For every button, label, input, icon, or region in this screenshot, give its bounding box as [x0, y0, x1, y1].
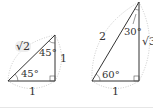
left-right-angle-mark	[50, 76, 55, 81]
right-top-angle-label: 30°	[124, 27, 142, 37]
left-base-label: 1	[29, 86, 36, 97]
right-bottom-angle-arc	[96, 74, 100, 81]
right-right-angle-mark	[134, 76, 139, 81]
right-top-angle-pointer	[133, 14, 136, 24]
bottom-divider	[0, 107, 153, 108]
left-vertical-side-label: 1	[60, 53, 67, 64]
right-hypotenuse-label: 2	[99, 31, 106, 42]
triangles-figure	[0, 0, 153, 110]
right-base-label: 1	[112, 86, 119, 97]
left-top-angle-label: 45°	[39, 48, 57, 58]
left-bottom-angle-label: 45°	[21, 69, 39, 79]
left-hypotenuse-label: √2	[15, 41, 31, 52]
left-top-angle-arc	[49, 41, 55, 43]
right-vertical-side-label: √3	[142, 36, 153, 47]
right-top-angle-arc	[135, 9, 139, 10]
right-dotted-arcs	[92, 2, 150, 89]
right-bottom-angle-label: 60°	[102, 70, 120, 80]
left-bottom-angle-arc	[15, 74, 18, 81]
